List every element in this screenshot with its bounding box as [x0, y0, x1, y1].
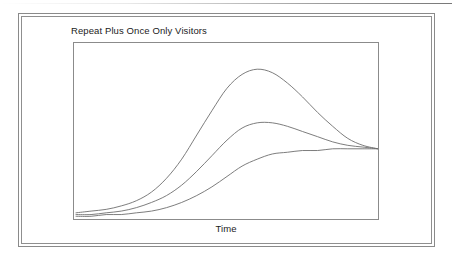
series-line-repeat-plus-once-only-visitors-total [76, 69, 378, 213]
series-line-repeat-visitors [76, 122, 378, 214]
chart-title: Repeat Plus Once Only Visitors [71, 25, 207, 37]
plot-area [73, 42, 379, 220]
top-hairline-rule [0, 3, 452, 4]
outer-frame: Repeat Plus Once Only Visitors Time [18, 13, 435, 247]
series-group [76, 69, 378, 216]
chart-card: Repeat Plus Once Only Visitors Time [22, 17, 431, 243]
plot-svg [74, 43, 378, 219]
inner-frame: Repeat Plus Once Only Visitors Time [21, 16, 432, 244]
x-axis-label: Time [73, 223, 379, 235]
